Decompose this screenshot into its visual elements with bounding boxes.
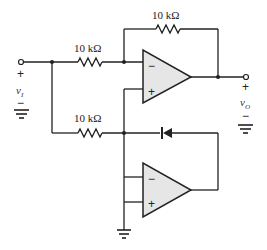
circuit-diagram: − + − + 10 kΩ 10 kΩ 10 kΩ + vI − + vO −	[0, 0, 267, 250]
junction-dot	[122, 131, 126, 135]
ground-icon	[117, 230, 131, 238]
resistor-feedback-top	[156, 25, 180, 33]
opamp-top-inverting-sign: −	[148, 59, 155, 73]
ground-icon	[238, 125, 253, 133]
output-terminal	[244, 75, 249, 80]
input-terminal	[19, 60, 24, 65]
resistor-input-top	[78, 58, 102, 66]
junction-dot	[50, 60, 54, 64]
diode-icon	[162, 127, 172, 139]
opamp-top-noninverting-sign: +	[148, 85, 155, 99]
opamp-bottom-inverting-sign: −	[148, 172, 155, 186]
label-r-feedback: 10 kΩ	[152, 9, 179, 21]
ground-icon	[14, 110, 29, 118]
opamp-bottom-noninverting-sign: +	[148, 197, 155, 211]
output-plus: +	[242, 80, 249, 94]
junction-dot	[216, 75, 220, 79]
resistor-input-bottom	[78, 129, 102, 137]
output-minus: −	[242, 109, 249, 123]
label-r-input-bottom: 10 kΩ	[74, 112, 101, 124]
input-minus: −	[17, 96, 24, 110]
label-r-input-top: 10 kΩ	[74, 42, 101, 54]
input-plus: +	[17, 67, 24, 81]
junction-dot	[122, 60, 126, 64]
